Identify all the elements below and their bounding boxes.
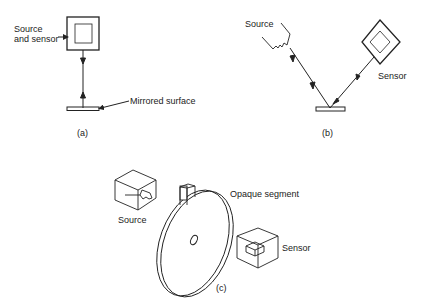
label-source-c: Source — [118, 215, 147, 225]
source-cube — [115, 170, 156, 210]
optical-sensor-diagram: Source and sensor Mirrored surface (a) S… — [0, 0, 424, 306]
label-sensor-b: Sensor — [378, 71, 407, 81]
label-source-b: Source — [245, 19, 274, 29]
caption-b: (b) — [322, 128, 333, 138]
sensor-diamond — [362, 20, 400, 64]
panel-a — [58, 17, 129, 111]
label-sensor-c: Sensor — [282, 243, 311, 253]
caption-c: (c) — [216, 283, 227, 293]
label-source-sensor-line2: and sensor — [14, 34, 59, 44]
caption-a: (a) — [77, 128, 88, 138]
label-source-sensor-line1: Source — [14, 24, 43, 34]
diagram-drawing — [0, 0, 424, 306]
label-opaque-segment: Opaque segment — [230, 189, 299, 199]
sensor-cube — [237, 228, 278, 268]
panel-b — [262, 20, 400, 111]
source-sensor-box — [67, 17, 99, 50]
disk — [143, 180, 243, 306]
label-mirrored-surface: Mirrored surface — [130, 96, 196, 106]
